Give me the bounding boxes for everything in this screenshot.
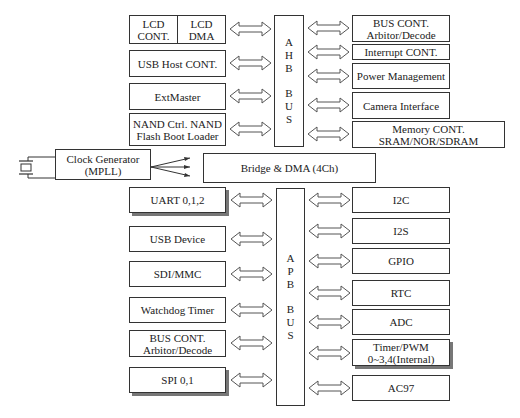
bus-arrows: [0, 0, 520, 418]
